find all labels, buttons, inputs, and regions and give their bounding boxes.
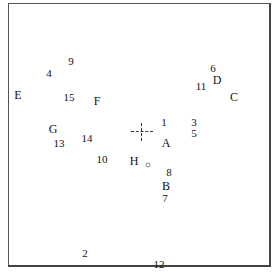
point-label-13: 13: [54, 138, 65, 149]
point-label-H: H: [130, 155, 139, 167]
point-label-14: 14: [82, 133, 93, 144]
point-label-5: 5: [191, 128, 197, 139]
point-label-11: 11: [196, 81, 207, 92]
point-label-10: 10: [97, 154, 108, 165]
point-label-7: 7: [162, 193, 168, 204]
point-label-A: A: [162, 137, 171, 149]
point-label-D: D: [213, 74, 222, 86]
point-label-G: G: [49, 123, 58, 135]
small-circle-marker: [146, 163, 151, 168]
point-label-6: 6: [210, 63, 216, 74]
point-label-4: 4: [46, 68, 52, 79]
point-label-12: 12: [154, 259, 165, 270]
point-label-9: 9: [68, 56, 74, 67]
point-label-1: 1: [161, 117, 167, 128]
point-label-2: 2: [82, 248, 88, 259]
point-label-E: E: [14, 89, 21, 101]
point-label-C: C: [230, 91, 238, 103]
crosshair-icon: [131, 123, 153, 141]
point-label-8: 8: [166, 167, 172, 178]
point-label-15: 15: [64, 92, 75, 103]
point-label-B: B: [162, 180, 170, 192]
point-label-F: F: [94, 95, 101, 107]
